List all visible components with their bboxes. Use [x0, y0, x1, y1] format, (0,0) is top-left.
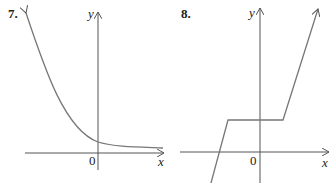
graph-7-number: 7.	[8, 6, 18, 21]
graph-8-y-label: y	[247, 5, 255, 20]
graph-7-y-label: y	[86, 6, 94, 21]
graph-8-piecewise-line	[211, 9, 318, 183]
graph-8-number: 8.	[181, 6, 191, 21]
figure-canvas: 7. y 0 x 8. y 0 x	[0, 0, 330, 183]
graph-8-origin-label: 0	[250, 153, 257, 168]
graph-7-curve	[26, 13, 163, 148]
graph-8-x-label: x	[321, 155, 328, 170]
graph-7-x-label: x	[157, 154, 164, 169]
graph-7: 7. y 0 x	[8, 6, 164, 170]
graph-7-origin-label: 0	[89, 153, 96, 168]
graph-8: 8. y 0 x	[180, 5, 329, 183]
